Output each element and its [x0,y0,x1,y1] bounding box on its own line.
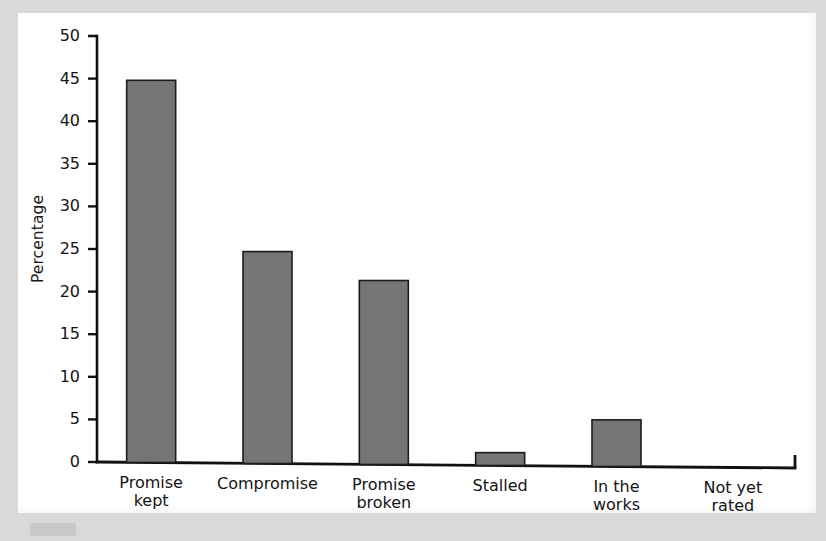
x-axis-category-label-line: Promise [86,474,216,492]
y-axis-ticks [88,79,97,462]
x-axis-category-label: Not yetrated [668,479,798,515]
x-axis-category-label-line: kept [86,492,216,510]
x-axis-category-label-line: Promise [319,476,449,494]
x-axis-category-label-line: broken [319,494,449,512]
bar [359,281,408,465]
bars-group [127,80,641,466]
plot-area [0,0,826,541]
x-axis-category-label-line: Stalled [435,477,565,495]
x-axis-category-label: Promisekept [86,474,216,510]
x-axis-category-label-line: rated [668,497,798,515]
x-axis-line [97,462,795,468]
bar-chart-figure: Percentage 05101520253035404550 Promisek… [0,0,826,541]
x-axis-category-label-line: Compromise [203,475,333,493]
bar [243,252,292,464]
axes-group [88,36,795,468]
x-axis-category-label-line: In the [552,478,682,496]
bar [592,420,641,467]
x-axis-category-label: Compromise [203,475,333,493]
x-axis-category-label: In theworks [552,478,682,514]
x-axis-category-label-line: works [552,496,682,514]
x-axis-category-label: Promisebroken [319,476,449,512]
bar [127,80,176,462]
x-axis-category-label: Stalled [435,477,565,495]
x-axis-category-label-line: Not yet [668,479,798,497]
bar [476,453,525,466]
